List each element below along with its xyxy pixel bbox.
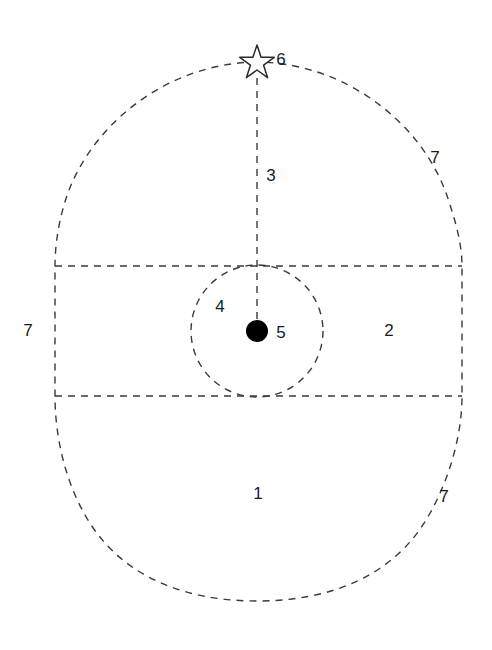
diagram-vector-layer [0,0,492,650]
center-dot-marker [246,320,268,342]
diagram-canvas: 1 2 3 4 5 6 7 7 7 [0,0,492,650]
zone-label-7-upper-right: 7 [430,149,439,166]
zone-label-4: 4 [215,298,224,315]
zone-label-5: 5 [276,324,285,341]
zone-label-7-lower-right: 7 [439,488,448,505]
zone-label-7-left: 7 [23,322,32,339]
zone-label-3: 3 [266,167,275,184]
zone-label-2: 2 [384,322,393,339]
zone-label-1: 1 [253,485,262,502]
apex-star-icon [240,45,274,78]
zone-label-6: 6 [276,51,285,68]
